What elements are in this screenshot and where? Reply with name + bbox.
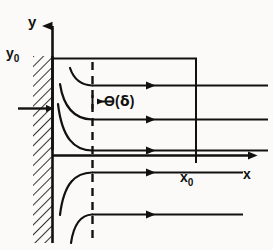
boundary-layer-diagram: y y0 x x0 O(δ): [0, 0, 273, 250]
x-station-letter: x: [180, 169, 188, 185]
x-station-label: x0: [180, 170, 193, 188]
y-origin-subscript: 0: [14, 53, 20, 64]
y-axis-label: y: [28, 14, 36, 29]
x-axis-label: x: [243, 167, 251, 181]
diagram-canvas: [0, 0, 273, 250]
streamline-curve: [70, 68, 92, 86]
y-origin-letter: y: [6, 45, 14, 61]
streamline-curve: [71, 215, 92, 244]
streamline-curve: [60, 84, 92, 120]
streamline-curve: [60, 173, 92, 216]
delta-symbol: δ: [120, 93, 130, 109]
thickness-prefix: O(: [104, 93, 120, 109]
wall-hatching: [33, 56, 52, 243]
streamline-curve: [58, 104, 92, 151]
boundary-layer-thickness-label: O(δ): [104, 94, 135, 108]
x-station-subscript: 0: [188, 177, 194, 188]
thickness-suffix: ): [130, 93, 135, 109]
y-origin-label: y0: [6, 46, 19, 64]
